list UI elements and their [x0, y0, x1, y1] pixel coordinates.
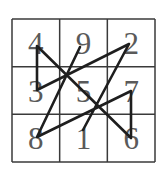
cell-digit-2: 2 [123, 26, 139, 61]
cell-digit-9: 9 [76, 26, 92, 61]
magic-square-diagram: 492357816 [0, 0, 166, 174]
